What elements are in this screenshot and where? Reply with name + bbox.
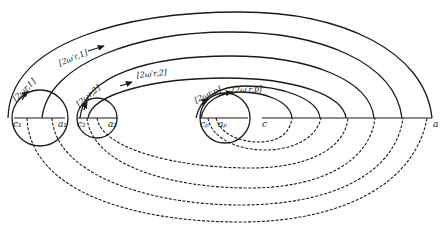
label-path-p-prime: [2ω′r,p]: [232, 84, 264, 95]
dashed-orbits: [27, 118, 427, 222]
label-a1: a₁: [58, 119, 67, 129]
label-c2: c₂: [77, 119, 86, 129]
label-cp: cₚ: [200, 119, 209, 129]
solid-orbits: [8, 12, 432, 118]
label-path-1-prime: [2ω′r,1]: [57, 48, 89, 68]
label-path-p: [2ωr,p]: [193, 84, 223, 105]
label-path-2-prime: [2ω′r,2]: [136, 68, 168, 80]
label-c: c: [262, 119, 267, 129]
diagram-svg: [2ωr,1] [2ω′r,1] [2ωr,2] [2ω′r,2] [2ωr,p…: [0, 0, 442, 240]
label-ap: aₚ: [218, 119, 227, 129]
label-a: a: [433, 119, 438, 129]
diagram-canvas: [2ωr,1] [2ω′r,1] [2ωr,2] [2ω′r,2] [2ωr,p…: [0, 0, 442, 240]
label-a2: a₂: [108, 119, 117, 129]
label-c1: c₁: [13, 119, 22, 129]
label-path-2: [2ωr,2]: [75, 83, 103, 109]
